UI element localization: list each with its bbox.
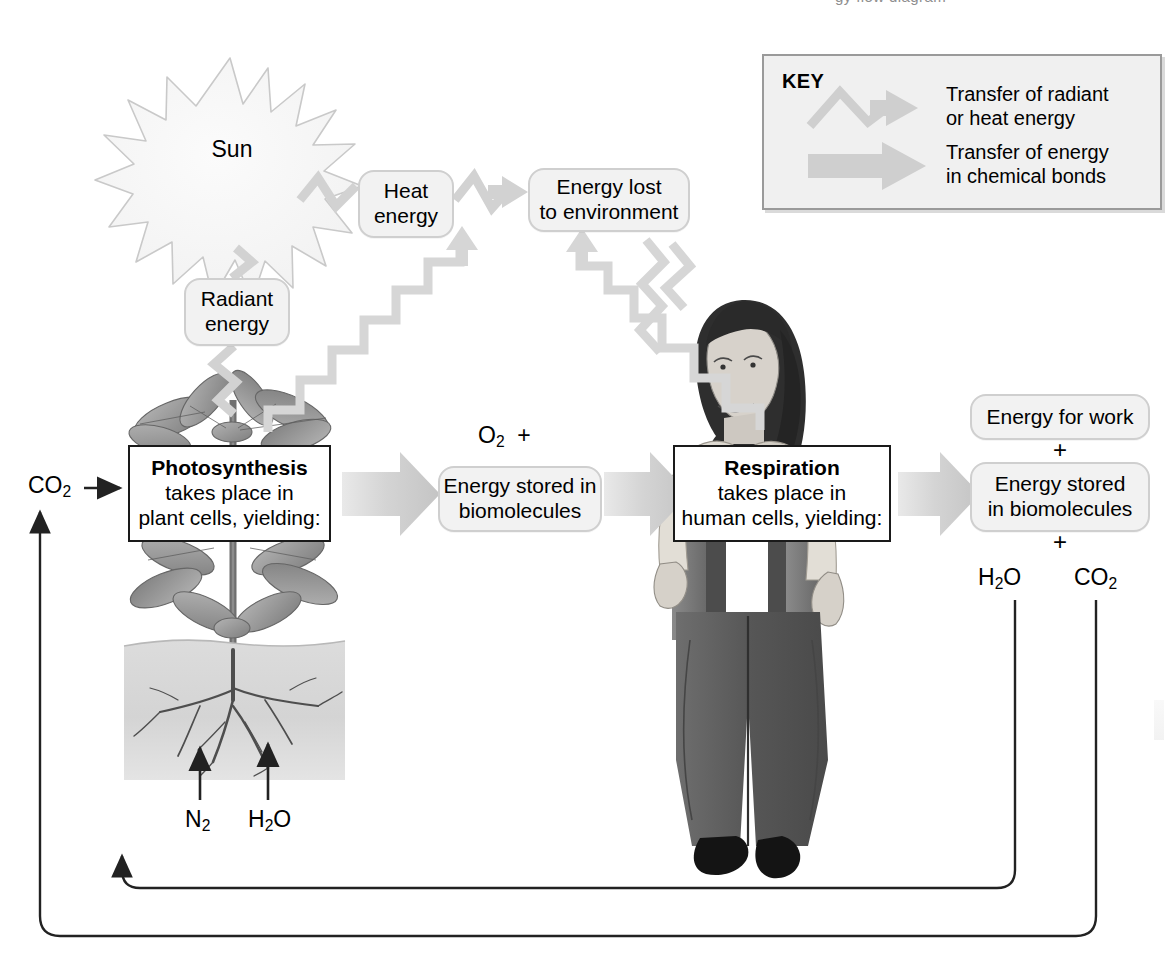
feedback-loop-co2 — [40, 512, 1096, 936]
zigzag-sun-to-radiant — [232, 248, 252, 278]
node-heat-energy-label: Heatenergy — [374, 179, 438, 229]
node-energy-lost: Energy lostto environment — [528, 168, 690, 232]
label-plus-lower: + — [1053, 528, 1067, 556]
energy-flow-diagram: gy flow diagram — [0, 0, 1170, 965]
node-energy-stored-right: Energy storedin biomolecules — [970, 462, 1150, 532]
node-energy-stored-middle-label: Energy stored inbiomolecules — [444, 474, 597, 524]
node-radiant-energy-label: Radiant energy — [201, 287, 273, 337]
node-energy-lost-label: Energy lostto environment — [540, 175, 679, 225]
label-co2-output: CO2 — [1074, 564, 1117, 593]
label-co2-input: CO2 — [28, 472, 71, 501]
node-photosynthesis: Photosynthesis takes place in plant cell… — [128, 445, 331, 542]
zigzag-sun-to-heat — [300, 178, 356, 206]
feedback-loop-h2o — [122, 600, 1015, 888]
zigzag-radiant-to-plant — [214, 346, 236, 414]
label-plus-upper: + — [1053, 436, 1067, 464]
node-respiration: Respiration takes place in human cells, … — [673, 445, 891, 542]
block-arrow-icon — [806, 140, 936, 192]
block-arrow-respiration-out — [898, 452, 980, 536]
node-energy-stored-right-label: Energy storedin biomolecules — [988, 472, 1133, 522]
zigzag-heat-to-energy-lost — [455, 176, 528, 208]
node-energy-for-work-label: Energy for work — [986, 405, 1133, 430]
block-arrow-photosynthesis-out — [342, 452, 440, 536]
key-entry-2-label: Transfer of energy in chemical bonds — [946, 140, 1109, 189]
label-n2-soil: N2 — [185, 806, 210, 835]
node-sun: Sun — [186, 130, 278, 170]
node-sun-label: Sun — [212, 136, 253, 163]
key-entry-1-label: Transfer of radiant or heat energy — [946, 82, 1109, 131]
node-respiration-label: Respiration takes place in human cells, … — [682, 456, 883, 530]
node-radiant-energy: Radiant energy — [184, 278, 290, 346]
node-heat-energy: Heatenergy — [358, 170, 454, 238]
node-energy-for-work: Energy for work — [970, 394, 1150, 440]
label-h2o-soil: H2O — [248, 806, 291, 835]
label-o2-plus: O2 + — [478, 422, 531, 451]
node-photosynthesis-label: Photosynthesis takes place in plant cell… — [138, 456, 320, 530]
label-h2o-output: H2O — [978, 564, 1021, 593]
key-panel: KEY Transfer of radiant or heat energy T… — [762, 54, 1162, 210]
zigzag-arrow-icon — [806, 82, 936, 134]
node-energy-stored-middle: Energy stored inbiomolecules — [438, 466, 602, 532]
zigzag-photosynthesis-to-energy-lost — [268, 226, 478, 432]
